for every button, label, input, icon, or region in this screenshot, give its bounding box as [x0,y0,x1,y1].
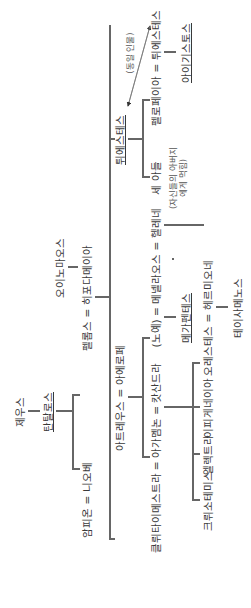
node-orestes-hermione: 오레스테스 = 헤르미오네 [202,260,214,375]
node-electra: 엘렉트라 [202,435,214,475]
bracket-atreus-children [142,338,144,458]
node-megapenthes: 메가펜테스 [180,293,192,343]
line-to-menelaus [142,338,150,340]
same-person-note: (동일 인물) [125,32,135,73]
node-iphigenia: 이피게네이아 [202,378,214,438]
node-tisamenus: 테이사메노스 [232,278,244,338]
line-to-megapenthes [164,317,176,319]
line-to-chrysothemis [192,500,200,502]
genealogy-diagram: 제우스 탄탈로스 암피온 = 니오베 펠롭스 = 히포다메이아 오이노마오스 아… [0,0,251,608]
spacer [172,258,174,260]
line-to-iphigenia [192,407,200,409]
node-chrysothemis: 크뤼소테미스 [202,471,214,531]
node-slave-menelaus-helen: (노예) = 메넬라오스 = 헬레네 [150,208,162,347]
line-to-electra [192,454,200,456]
bracket-agamemnon-children [192,363,194,501]
line-atreus-down [128,397,142,399]
line-helen-to-hermione [164,225,204,227]
line-to-agamemnon [142,457,150,459]
node-clytemnestra-agamemnon-cassandra: 클뤼타이메스트라 = 아가멤논 = 캇산드라 [150,363,162,554]
line-to-tisamenus [216,307,228,309]
line-to-orestes [192,363,200,365]
line-agamemnon-down [164,407,192,409]
